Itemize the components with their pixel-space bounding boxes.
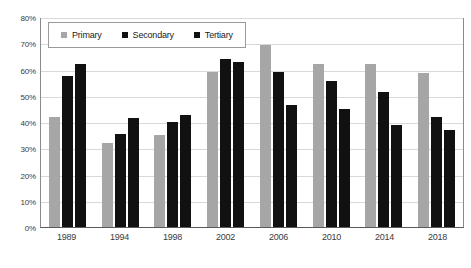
bar-groups: [41, 18, 463, 227]
y-axis: 0%10%20%30%40%50%60%70%80%: [0, 0, 40, 268]
bar-group-1998: [147, 18, 200, 227]
legend-item-secondary[interactable]: Secondary: [122, 30, 174, 40]
x-tick-label-1989: 1989: [40, 232, 93, 242]
bar-group-2006: [252, 18, 305, 227]
bar-group-2002: [199, 18, 252, 227]
y-tick-label: 30%: [21, 145, 36, 154]
y-tick-label: 40%: [21, 119, 36, 128]
bar-chart: 0%10%20%30%40%50%60%70%80% 1989199419982…: [0, 0, 471, 268]
bar-primary-2014: [365, 64, 376, 227]
bar-secondary-2014: [378, 92, 389, 227]
bar-tertiary-2002: [233, 62, 244, 227]
bar-tertiary-1989: [75, 64, 86, 227]
x-tick-label-2014: 2014: [358, 232, 411, 242]
bar-primary-2018: [418, 73, 429, 227]
bar-secondary-2018: [431, 117, 442, 227]
x-tick-label-1994: 1994: [93, 232, 146, 242]
bar-tertiary-1994: [128, 118, 139, 227]
y-tick-label: 60%: [21, 66, 36, 75]
bar-primary-1989: [49, 117, 60, 227]
bar-tertiary-2010: [339, 109, 350, 227]
bar-primary-1994: [102, 143, 113, 227]
bar-primary-1998: [154, 135, 165, 227]
bar-tertiary-2014: [391, 125, 402, 227]
legend-swatch-secondary: [122, 32, 128, 38]
legend-item-primary[interactable]: Primary: [61, 30, 102, 40]
bar-primary-2006: [260, 45, 271, 227]
bar-secondary-2006: [273, 72, 284, 227]
y-tick-label: 50%: [21, 92, 36, 101]
bar-tertiary-1998: [180, 115, 191, 227]
legend-item-tertiary[interactable]: Tertiary: [194, 30, 233, 40]
chart-legend: PrimarySecondaryTertiary: [48, 22, 246, 48]
bar-secondary-2010: [326, 81, 337, 227]
bar-group-2018: [410, 18, 463, 227]
bar-group-1994: [94, 18, 147, 227]
x-tick-label-2002: 2002: [199, 232, 252, 242]
bar-group-2010: [305, 18, 358, 227]
bar-tertiary-2018: [444, 130, 455, 227]
y-tick-label: 80%: [21, 14, 36, 23]
x-tick-label-2006: 2006: [252, 232, 305, 242]
legend-label: Primary: [72, 30, 102, 40]
x-tick-label-1998: 1998: [146, 232, 199, 242]
bar-secondary-1998: [167, 122, 178, 227]
y-tick-label: 70%: [21, 40, 36, 49]
plot-area: [40, 18, 464, 228]
bar-group-2014: [358, 18, 411, 227]
bar-primary-2002: [207, 72, 218, 227]
bar-secondary-2002: [220, 59, 231, 227]
x-axis: 19891994199820022006201020142018: [40, 232, 464, 242]
legend-swatch-primary: [61, 32, 67, 38]
y-tick-label: 10%: [21, 197, 36, 206]
bar-tertiary-2006: [286, 105, 297, 227]
bar-primary-2010: [313, 64, 324, 227]
y-tick-label: 20%: [21, 171, 36, 180]
x-tick-label-2010: 2010: [305, 232, 358, 242]
bar-secondary-1989: [62, 76, 73, 227]
legend-label: Secondary: [133, 30, 174, 40]
x-tick-label-2018: 2018: [411, 232, 464, 242]
legend-swatch-tertiary: [194, 32, 200, 38]
bar-group-1989: [41, 18, 94, 227]
y-tick-label: 0%: [25, 224, 36, 233]
bar-secondary-1994: [115, 134, 126, 227]
legend-label: Tertiary: [205, 30, 233, 40]
